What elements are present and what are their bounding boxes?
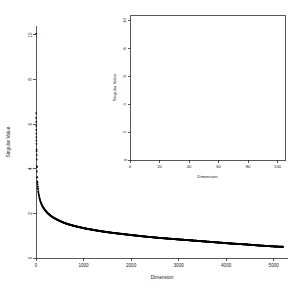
main-y-tick-label: 10 — [28, 32, 33, 38]
main-data-point — [36, 182, 38, 184]
inset-x-tick-label: 80 — [246, 164, 251, 169]
main-data-point — [36, 171, 38, 173]
main-data-point — [37, 185, 39, 187]
main-x-tick-label: 4000 — [221, 263, 232, 268]
main-data-point — [38, 192, 40, 194]
main-x-tick-label: 5000 — [269, 263, 280, 268]
main-data-point — [37, 188, 39, 190]
main-x-tick-label: 1000 — [78, 263, 89, 268]
inset-plot: 020406080100 0246810 Dimension Singular … — [108, 6, 293, 187]
main-y-tick-label: 2 — [28, 212, 33, 215]
main-data-point — [282, 246, 284, 248]
inset-x-tick-label: 40 — [187, 164, 192, 169]
main-data-point — [36, 176, 38, 178]
main-x-tick-label: 0 — [35, 263, 38, 268]
main-y-tick-label: 8 — [28, 78, 33, 81]
inset-y-tick-label: 10 — [123, 18, 128, 23]
figure-root: 010002000300040005000 0246810 Dimension … — [0, 0, 293, 290]
main-data-point — [37, 184, 39, 186]
main-x-tick-label: 2000 — [126, 263, 137, 268]
inset-x-axis-title: Dimension — [197, 174, 218, 179]
main-y-tick-label: 4 — [28, 167, 33, 170]
inset-x-tick-label: 20 — [157, 164, 162, 169]
inset-y-axis-title: Singular Value — [112, 73, 117, 101]
inset-x-tick-label: 100 — [274, 164, 282, 169]
main-y-tick-label: 0 — [28, 256, 33, 259]
main-y-tick-label: 6 — [28, 122, 33, 125]
singular-value-figure: 010002000300040005000 0246810 Dimension … — [0, 0, 293, 290]
inset-x-tick-label: 60 — [216, 164, 221, 169]
main-x-tick-label: 3000 — [174, 263, 185, 268]
main-data-point — [37, 190, 39, 192]
main-x-axis-title: Dimension — [151, 275, 174, 280]
main-y-axis-title: Singular Value — [6, 126, 11, 157]
inset-frame — [130, 15, 285, 160]
